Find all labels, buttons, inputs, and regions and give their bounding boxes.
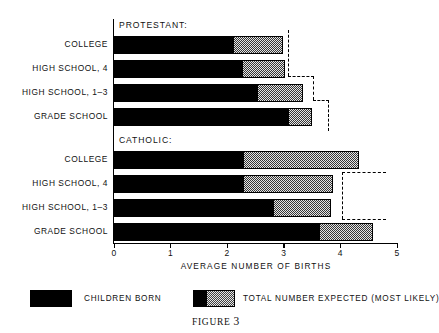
x-tick-label-2: 2 — [217, 248, 237, 258]
legend-swatch-children-born — [30, 290, 72, 307]
figure-caption: FIGURE 3 — [0, 315, 432, 327]
protestant-bracket-segment-v2 — [313, 76, 314, 100]
bar-catholic-high-school-1-3 — [114, 199, 331, 217]
bar-catholic-grade-school — [114, 223, 373, 241]
x-tick-label-3: 3 — [274, 248, 294, 258]
x-tick-label-4: 4 — [330, 248, 350, 258]
legend-label-total-expected: TOTAL NUMBER EXPECTED (MOST LIKELY) — [243, 294, 439, 303]
x-tick-label-5: 5 — [387, 248, 407, 258]
legend-label-children-born: CHILDREN BORN — [84, 294, 162, 303]
catholic-bracket-segment-h1 — [342, 172, 386, 173]
category-label-protestant-college: COLLEGE — [0, 39, 108, 49]
category-label-catholic-college: COLLEGE — [0, 154, 108, 164]
category-label-catholic-high-school-4: HIGH SCHOOL, 4 — [0, 178, 108, 188]
bar-segment-children-born — [114, 84, 258, 102]
bar-segment-children-born — [114, 151, 244, 169]
category-label-catholic-grade-school: GRADE SCHOOL — [0, 226, 108, 236]
category-label-protestant-high-school-4: HIGH SCHOOL, 4 — [0, 63, 108, 73]
bar-protestant-grade-school — [114, 108, 312, 126]
section-heading-catholic: CATHOLIC: — [119, 135, 172, 145]
bar-segment-children-born — [114, 60, 243, 78]
figure-caption-label: FIGURE — [192, 317, 231, 327]
category-label-catholic-high-school-1-3: HIGH SCHOOL, 1–3 — [0, 202, 108, 212]
legend-swatch-total-expected — [193, 290, 235, 307]
category-label-protestant-high-school-1-3: HIGH SCHOOL, 1–3 — [0, 87, 108, 97]
protestant-bracket-segment-v1 — [288, 30, 289, 76]
bar-segment-children-born — [114, 108, 289, 126]
bar-segment-children-born — [114, 199, 274, 217]
bar-segment-children-born — [114, 223, 320, 241]
bar-protestant-college — [114, 36, 283, 54]
category-label-protestant-grade-school: GRADE SCHOOL — [0, 111, 108, 121]
legend-swatch-stipple-part — [206, 290, 235, 307]
x-axis-line — [113, 243, 398, 244]
x-tick-label-1: 1 — [161, 248, 181, 258]
catholic-bracket-segment-v1 — [342, 172, 343, 219]
protestant-bracket-segment-v3 — [328, 100, 329, 131]
bar-protestant-high-school-1-3 — [114, 84, 303, 102]
protestant-bracket-segment-h1 — [288, 76, 314, 77]
section-heading-protestant: PROTESTANT: — [119, 20, 187, 30]
bar-catholic-college — [114, 151, 359, 169]
figure-caption-number: 3 — [234, 315, 240, 327]
bar-segment-children-born — [114, 36, 234, 54]
x-axis-title: AVERAGE NUMBER OF BIRTHS — [114, 261, 398, 271]
legend-swatch-black-part — [193, 290, 206, 307]
protestant-bracket-segment-h2 — [313, 100, 329, 101]
bar-segment-children-born — [114, 175, 244, 193]
catholic-bracket-segment-h2 — [342, 219, 386, 220]
bar-protestant-high-school-4 — [114, 60, 285, 78]
x-tick-label-0: 0 — [104, 248, 124, 258]
bar-catholic-high-school-4 — [114, 175, 333, 193]
